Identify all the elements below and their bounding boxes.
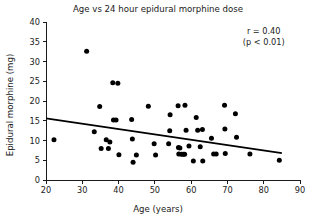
data-point xyxy=(97,104,102,109)
data-point xyxy=(107,140,112,145)
data-point xyxy=(233,111,238,116)
x-tick-label: 60 xyxy=(186,185,196,195)
data-point xyxy=(214,151,219,156)
data-point xyxy=(194,115,199,120)
data-point xyxy=(200,159,205,164)
data-point xyxy=(191,159,196,164)
y-tick-label: 35 xyxy=(30,37,40,47)
data-point xyxy=(106,146,111,151)
y-tick-label: 25 xyxy=(30,76,40,86)
x-axis-tick-group: 2030405060708090 xyxy=(41,180,305,195)
data-point xyxy=(99,146,104,151)
data-point xyxy=(110,80,115,85)
data-point xyxy=(182,152,187,157)
data-point xyxy=(222,127,227,132)
data-point xyxy=(209,136,214,141)
chart-figure: Age vs 24 hour epidural morphine dose Ep… xyxy=(0,0,316,222)
chart-title: Age vs 24 hour epidural morphine dose xyxy=(73,4,243,14)
data-point xyxy=(116,152,121,157)
y-tick-label: 30 xyxy=(30,57,40,67)
y-tick-label: 40 xyxy=(30,17,40,27)
data-point xyxy=(92,129,97,134)
x-tick-label: 80 xyxy=(259,185,269,195)
data-point xyxy=(222,103,227,108)
data-point xyxy=(177,146,182,151)
x-tick-label: 30 xyxy=(77,185,87,195)
data-point xyxy=(195,128,200,133)
data-point xyxy=(153,153,158,158)
data-point xyxy=(176,103,181,108)
x-axis-title: Age (years) xyxy=(133,204,183,214)
trend-line xyxy=(46,118,282,153)
x-tick-label: 40 xyxy=(113,185,123,195)
data-point xyxy=(234,135,239,140)
data-point xyxy=(146,104,151,109)
data-point xyxy=(184,128,189,133)
data-point xyxy=(166,141,171,146)
y-tick-label: 5 xyxy=(35,155,40,165)
data-point xyxy=(130,136,135,141)
data-point xyxy=(131,160,136,165)
y-tick-label: 0 xyxy=(35,175,40,185)
data-point xyxy=(84,49,89,54)
chart-annotation: (p < 0.01) xyxy=(243,37,285,47)
y-tick-label: 10 xyxy=(30,136,40,146)
data-point xyxy=(200,127,205,132)
x-tick-label: 70 xyxy=(222,185,232,195)
data-point xyxy=(186,144,191,149)
y-tick-label: 20 xyxy=(30,96,40,106)
data-point xyxy=(168,112,173,117)
data-point xyxy=(51,137,56,142)
x-tick-label: 50 xyxy=(150,185,160,195)
y-tick-label: 15 xyxy=(30,116,40,126)
scatter-plot-svg: Age vs 24 hour epidural morphine dose Ep… xyxy=(0,0,316,222)
data-point xyxy=(167,128,172,133)
chart-annotation: r = 0.40 xyxy=(247,26,281,36)
x-tick-label: 20 xyxy=(41,185,51,195)
data-point xyxy=(114,117,119,122)
y-axis-tick-group: 0510152025303540 xyxy=(30,17,46,185)
x-tick-label: 90 xyxy=(295,185,305,195)
annotations-group: r = 0.40(p < 0.01) xyxy=(243,26,285,47)
data-point xyxy=(134,153,139,158)
data-point xyxy=(182,103,187,108)
data-point xyxy=(277,158,282,163)
data-point xyxy=(129,117,134,122)
data-point xyxy=(152,141,157,146)
y-axis-title: Epidural morphine (mg) xyxy=(5,54,15,157)
data-point xyxy=(115,81,120,86)
data-point xyxy=(247,151,252,156)
data-point xyxy=(198,144,203,149)
data-point xyxy=(223,151,228,156)
